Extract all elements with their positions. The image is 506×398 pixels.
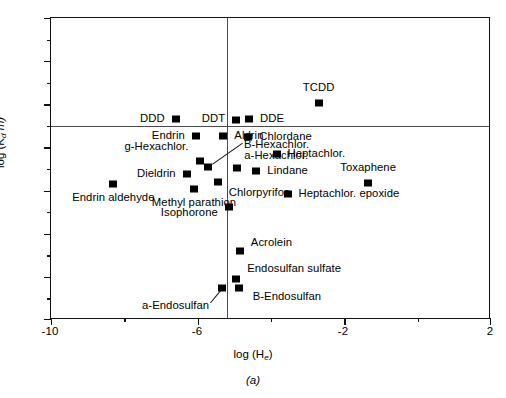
data-point-label: Isophorone <box>161 207 218 219</box>
y-axis-tick <box>44 18 51 19</box>
x-tick-label: 2 <box>468 325 506 337</box>
x-axis-tick <box>198 318 199 325</box>
y-axis-tick <box>44 234 51 235</box>
y-axis-title-main: log (K <box>0 138 6 168</box>
y-axis-tick <box>44 147 51 148</box>
y-axis-title-subscript: d <box>0 134 8 138</box>
x-axis-tick <box>344 318 345 325</box>
label-leader-line <box>212 143 243 165</box>
data-point-label: Acrolein <box>251 237 292 249</box>
data-point-label: Endosulfan sulfate <box>247 263 341 275</box>
y-axis-tick <box>44 104 51 105</box>
data-point-label: DDD <box>140 113 165 125</box>
data-point-label: Toxaphene <box>340 162 396 174</box>
plot-area: DDDDDTDDETCDDEndrinAldrinChlordaneg-Hexa… <box>50 17 490 319</box>
data-point-label: B-Endosulfan <box>253 291 321 303</box>
data-point-label: Heptachlor. epoxide <box>299 188 400 200</box>
data-point-label: a-Hexachlor. <box>244 150 308 162</box>
data-point-label: Lindane <box>267 165 308 177</box>
data-point-label: TCDD <box>303 82 335 94</box>
x-axis-tick <box>51 318 52 325</box>
data-point-label: Dieldrin <box>137 168 176 180</box>
data-point-label: Chlorpyrifos <box>229 187 290 199</box>
y-axis-tick <box>44 61 51 62</box>
data-point-label: g-Hexachlor. <box>124 141 188 153</box>
data-point-label: a-Endosulfan <box>142 300 209 312</box>
data-point-label: Endrin aldehyde <box>72 192 154 204</box>
x-axis-title: log (He) <box>0 348 506 362</box>
x-axis-title-end: ) <box>269 348 273 360</box>
y-axis-tick <box>44 319 51 320</box>
x-tick-label: -6 <box>175 325 219 337</box>
x-axis-tick-minor <box>271 318 272 322</box>
y-axis-tick <box>44 191 51 192</box>
x-axis-title-main: log (H <box>234 348 265 360</box>
x-axis-tick-minor <box>418 318 419 322</box>
data-labels-layer: DDDDDTDDETCDDEndrinAldrinChlordaneg-Hexa… <box>51 18 489 318</box>
data-point-label: DDT <box>202 113 225 125</box>
x-tick-label: -2 <box>321 325 365 337</box>
x-axis-tick-minor <box>124 318 125 322</box>
scatter-figure: 4 2 0 -2 -4 -6 -8 -10 -10 -6 -2 2 log (K… <box>0 0 506 398</box>
x-tick-label: -10 <box>28 325 72 337</box>
y-axis-title: log (Kd m) <box>0 117 8 168</box>
data-point-label: DDE <box>260 113 284 125</box>
y-axis-tick <box>44 277 51 278</box>
y-axis-title-end: m) <box>0 117 6 134</box>
x-axis-tick <box>490 318 491 325</box>
label-leader-line <box>210 290 221 303</box>
panel-caption: (a) <box>0 374 506 386</box>
